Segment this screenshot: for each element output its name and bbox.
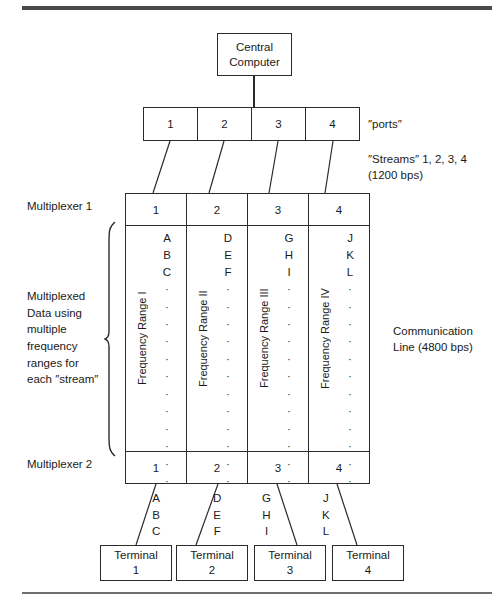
- frequency-dot: ·: [226, 333, 230, 350]
- frequency-dot: ·: [348, 386, 352, 403]
- terminal-4-line2: 4: [365, 563, 371, 578]
- frequency-dot: ·: [287, 299, 291, 316]
- frequency-dot: ·: [165, 386, 169, 403]
- frequency-dot: ·: [348, 438, 352, 455]
- multiplexer-block: 1 2 3 4 Frequency Range I ABC···········…: [125, 193, 370, 484]
- stream-line-2: [209, 141, 224, 193]
- central-computer-box: Central Computer: [217, 33, 292, 76]
- output-letters-3: G H I: [262, 490, 271, 540]
- port-cell-1: 1: [144, 108, 198, 140]
- terminal-4-line1: Terminal: [346, 548, 389, 563]
- frequency-dot: ·: [348, 473, 352, 490]
- top-rule: [22, 6, 492, 10]
- frequency-dot: ·: [165, 299, 169, 316]
- frequency-dot: ·: [287, 281, 291, 298]
- terminal-1-line2: 1: [133, 563, 139, 578]
- frequency-dot: ·: [287, 456, 291, 473]
- frequency-dot: ·: [226, 316, 230, 333]
- frequency-dot: ·: [165, 456, 169, 473]
- streams-label: ″Streams″ 1, 2, 3, 4 (1200 bps): [368, 152, 467, 183]
- frequency-column-3: Frequency Range III GHI············: [248, 226, 309, 451]
- frequency-letter: B: [163, 247, 171, 264]
- frequency-stack-3: GHI············: [270, 230, 308, 491]
- terminal-box-1: Terminal 1: [100, 545, 172, 581]
- frequency-dot: ·: [226, 368, 230, 385]
- frequency-dot: ·: [348, 421, 352, 438]
- frequency-dot: ·: [348, 333, 352, 350]
- frequency-letter: J: [347, 230, 353, 247]
- frequency-dot: ·: [287, 403, 291, 420]
- frequency-stack-1: ABC············: [148, 230, 186, 491]
- frequency-dot: ·: [226, 351, 230, 368]
- frequency-dot: ·: [348, 456, 352, 473]
- port-cell-2: 2: [198, 108, 252, 140]
- frequency-dot: ·: [348, 316, 352, 333]
- central-computer-line2: Computer: [229, 55, 280, 70]
- terminals-row: Terminal 1 Terminal 2 Terminal 3 Termina…: [0, 545, 502, 585]
- frequency-stack-2: DEF············: [209, 230, 247, 491]
- mux1-cell-1: 1: [126, 194, 187, 225]
- frequency-dot: ·: [165, 316, 169, 333]
- frequency-dot: ·: [165, 333, 169, 350]
- terminal-3-line2: 3: [287, 563, 293, 578]
- multiplexed-data-note: Multiplexed Data using multiple frequenc…: [27, 288, 98, 388]
- frequency-dot: ·: [165, 281, 169, 298]
- port-cell-3: 3: [252, 108, 306, 140]
- frequency-dot: ·: [226, 299, 230, 316]
- figure-canvas: Central Computer 1 2 3 4 ″ports″ ″Stream…: [0, 0, 502, 611]
- frequency-dot: ·: [226, 281, 230, 298]
- frequency-dot: ·: [165, 403, 169, 420]
- frequency-dot: ·: [165, 368, 169, 385]
- terminal-box-2: Terminal 2: [176, 545, 248, 581]
- communication-line-label: Communication Line (4800 bps): [393, 324, 473, 355]
- multiplexer-2-label: Multiplexer 2: [27, 458, 92, 470]
- frequency-letter: C: [163, 264, 171, 281]
- multiplexer-1-label: Multiplexer 1: [27, 200, 92, 212]
- frequency-letter: K: [346, 247, 354, 264]
- terminal-2-line2: 2: [209, 563, 215, 578]
- frequency-letter: F: [224, 264, 231, 281]
- frequency-dot: ·: [348, 368, 352, 385]
- frequency-dot: ·: [226, 438, 230, 455]
- terminal-line-3: [277, 484, 297, 545]
- frequency-ranges-body: Frequency Range I ABC············ Freque…: [126, 226, 369, 451]
- port-cell-4: 4: [306, 108, 359, 140]
- frequency-dot: ·: [287, 351, 291, 368]
- frequency-stack-4: JKL············: [331, 230, 369, 491]
- stream-line-4: [325, 141, 333, 193]
- frequency-column-4: Frequency Range IV JKL············: [309, 226, 369, 451]
- frequency-dot: ·: [287, 421, 291, 438]
- output-letters-1: A B C: [152, 490, 160, 540]
- mux1-cell-4: 4: [309, 194, 369, 225]
- ports-label: ″ports″: [368, 117, 402, 133]
- frequency-dot: ·: [348, 351, 352, 368]
- frequency-dot: ·: [165, 438, 169, 455]
- frequency-dot: ·: [165, 421, 169, 438]
- frequency-dot: ·: [226, 386, 230, 403]
- multiplexer-1-row: 1 2 3 4: [126, 194, 369, 226]
- frequency-dot: ·: [287, 333, 291, 350]
- frequency-dot: ·: [287, 473, 291, 490]
- terminal-box-4: Terminal 4: [332, 545, 404, 581]
- frequency-dot: ·: [287, 438, 291, 455]
- frequency-letter: H: [285, 247, 293, 264]
- terminal-3-line1: Terminal: [268, 548, 311, 563]
- frequency-dot: ·: [287, 368, 291, 385]
- frequency-dot: ·: [348, 403, 352, 420]
- terminal-1-line1: Terminal: [114, 548, 157, 563]
- terminal-line-4: [337, 484, 357, 545]
- mux1-cell-3: 3: [248, 194, 309, 225]
- frequency-dot: ·: [348, 299, 352, 316]
- central-computer-to-ports-line: [253, 76, 255, 107]
- frequency-letter: G: [285, 230, 294, 247]
- frequency-column-1: Frequency Range I ABC············: [126, 226, 187, 451]
- central-computer-line1: Central: [236, 40, 273, 55]
- stream-line-1: [153, 141, 170, 193]
- frequency-letter: A: [163, 230, 171, 247]
- frequency-dot: ·: [226, 473, 230, 490]
- mux1-cell-2: 2: [187, 194, 248, 225]
- frequency-column-2: Frequency Range II DEF············: [187, 226, 248, 451]
- frequency-dot: ·: [165, 351, 169, 368]
- multiplexed-data-brace: [104, 221, 116, 457]
- ports-row: 1 2 3 4: [143, 107, 360, 141]
